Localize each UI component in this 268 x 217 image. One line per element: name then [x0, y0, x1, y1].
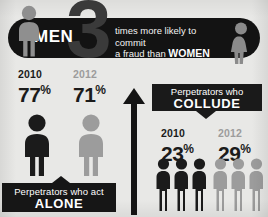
person-icon	[230, 158, 247, 211]
person-icon	[173, 158, 190, 211]
stat-value: 71%	[73, 80, 106, 105]
stat-unit: %	[240, 142, 251, 156]
stat-number: 71	[73, 83, 95, 106]
up-arrow-icon	[122, 88, 146, 217]
person-icon	[155, 158, 172, 211]
label-box-alone: Perpetrators who act ALONE	[2, 183, 116, 212]
person-group-collude-2012	[212, 158, 265, 211]
stat-alone-2010: 2010 77%	[18, 68, 51, 105]
header-statement-line2-prefix: a fraud than	[115, 48, 168, 59]
header-statement-line2: a fraud than WOMEN	[115, 48, 223, 60]
stat-unit: %	[40, 83, 51, 97]
stat-year: 2010	[18, 68, 51, 80]
label-box-collude-line2: COLLUDE	[152, 97, 262, 111]
stat-number: 77	[18, 83, 40, 106]
header-statement: times more likely to commit a fraud than…	[115, 25, 223, 60]
header-statement-line1: times more likely to commit	[115, 25, 223, 48]
male-person-icon	[14, 5, 44, 61]
person-icon	[248, 158, 265, 211]
person-icon-alone-2010	[18, 114, 56, 180]
stat-year: 2010	[161, 127, 194, 139]
person-icon-alone-2012	[72, 114, 110, 180]
person-group-collude-2010	[155, 158, 208, 211]
label-box-alone-line1: Perpetrators who act	[2, 183, 116, 197]
stat-unit: %	[183, 142, 194, 156]
label-box-collude: Perpetrators who COLLUDE	[152, 84, 262, 111]
person-icon	[212, 158, 229, 211]
female-person-icon	[228, 22, 254, 68]
stat-unit: %	[95, 83, 106, 97]
stat-year: 2012	[218, 127, 251, 139]
label-box-alone-line2: ALONE	[2, 197, 116, 211]
infographic-canvas: 3 MEN times more likely to commit a frau…	[0, 0, 268, 217]
stat-value: 77%	[18, 80, 51, 105]
women-label: WOMEN	[168, 47, 209, 59]
person-icon	[191, 158, 208, 211]
